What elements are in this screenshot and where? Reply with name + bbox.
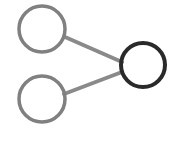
node-link-graph bbox=[0, 0, 178, 143]
diagram-canvas bbox=[0, 0, 178, 143]
canvas-background bbox=[0, 0, 178, 143]
